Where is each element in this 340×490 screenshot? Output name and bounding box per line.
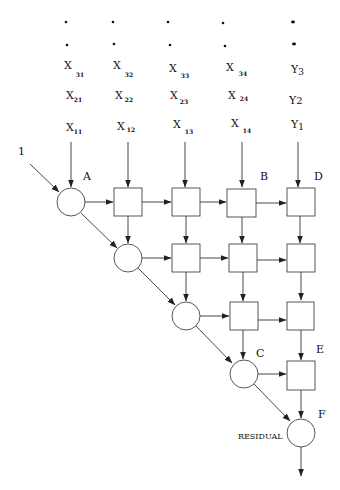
- residual-label: RESIDUAL: [238, 432, 283, 441]
- square-node-r2c4: [229, 244, 257, 272]
- input-labels-col1: X31 X21 X11: [64, 59, 84, 135]
- input-labels-col5: Y3 Y2 Y1: [288, 63, 304, 132]
- arrows-row1-row2: [81, 213, 300, 248]
- input-x13: X13: [173, 118, 193, 135]
- circle-node-c: [230, 360, 258, 388]
- input-labels-col2: X32 X22 X12: [113, 59, 135, 133]
- square-node-r2c5: [287, 244, 315, 272]
- input-y1: Y1: [290, 118, 304, 132]
- circle-node-f: [287, 419, 315, 447]
- node-label-b: B: [260, 170, 268, 183]
- input-labels-col4: X34 X24 X14: [226, 61, 251, 134]
- arrows-row2-row3: [138, 268, 301, 305]
- input-y2: Y2: [288, 94, 303, 107]
- input-x32: X32: [113, 59, 133, 78]
- input-x24: X24: [228, 89, 248, 102]
- row-2: [114, 244, 315, 272]
- square-node-r3c4: [230, 302, 258, 330]
- square-node-r2c3: [172, 244, 200, 272]
- ellipsis-dots: [65, 21, 296, 48]
- input-x12: X12: [117, 120, 135, 133]
- input-x11: X11: [66, 121, 82, 135]
- row-5: [287, 419, 315, 476]
- square-node-r1c2: [114, 188, 142, 216]
- node-label-f: F: [318, 408, 326, 421]
- input-x33: X33: [169, 62, 189, 79]
- circle-node-r3: [172, 302, 200, 330]
- square-node-d: [287, 188, 315, 216]
- input-one-arrow: [30, 164, 59, 192]
- input-y3: Y3: [290, 63, 304, 77]
- input-one-label: 1: [18, 145, 25, 158]
- systolic-array-diagram: X31 X21 X11 X32 X22 X12 X33 X23 X13 X34 …: [0, 0, 340, 490]
- node-label-d: D: [314, 170, 323, 183]
- row-1: [57, 188, 315, 217]
- input-x22: X22: [115, 89, 133, 103]
- row-4: [230, 360, 315, 390]
- square-node-r1c3: [172, 188, 200, 216]
- arrows-row3-row4: [196, 326, 301, 363]
- square-node-e: [287, 361, 315, 390]
- square-node-r3c5: [287, 302, 314, 330]
- square-node-b: [227, 189, 256, 217]
- circle-node-r2: [114, 244, 142, 272]
- input-x21: X21: [66, 89, 82, 103]
- input-x23: X23: [170, 89, 188, 105]
- row-3: [172, 302, 314, 330]
- input-x31: X31: [64, 59, 84, 78]
- node-label-a: A: [82, 170, 92, 183]
- circle-node-a: [57, 188, 85, 216]
- input-x14: X14: [231, 117, 251, 134]
- input-labels-col3: X33 X23 X13: [169, 62, 193, 135]
- node-label-e: E: [316, 343, 324, 356]
- node-label-c: C: [256, 347, 264, 360]
- input-x34: X34: [226, 61, 247, 77]
